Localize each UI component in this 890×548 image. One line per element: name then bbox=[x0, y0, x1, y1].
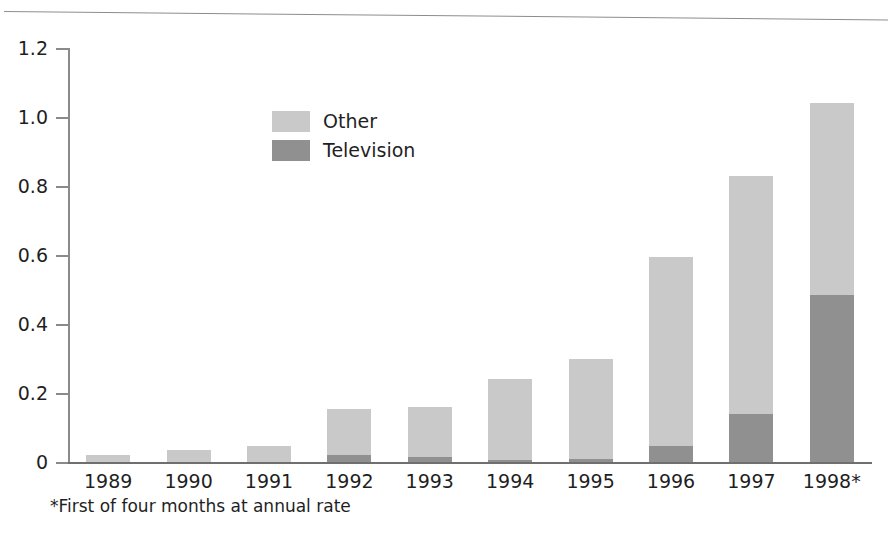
bar-segment-other-1990 bbox=[167, 450, 211, 462]
y-tick-label-0_4: 0.4 bbox=[18, 315, 48, 334]
y-axis-line bbox=[68, 48, 70, 462]
x-tick-label-1994: 1994 bbox=[470, 470, 550, 492]
bar-segment-television-1996 bbox=[649, 446, 693, 462]
x-tick-label-1990: 1990 bbox=[148, 470, 228, 492]
legend-label-television: Television bbox=[323, 140, 415, 161]
bar-segment-television-1997 bbox=[729, 414, 773, 462]
y-tick-0_4 bbox=[56, 324, 68, 326]
x-tick-label-1995: 1995 bbox=[550, 470, 630, 492]
y-tick-label-0: 0 bbox=[36, 453, 48, 472]
x-tick-label-1993: 1993 bbox=[390, 470, 470, 492]
y-tick-0_6 bbox=[56, 255, 68, 257]
x-tick-label-1997: 1997 bbox=[711, 470, 791, 492]
bar-segment-television-1995 bbox=[569, 459, 613, 462]
bar-segment-other-1991 bbox=[247, 446, 291, 462]
x-tick-label-1998: 1998* bbox=[792, 470, 872, 492]
bar-segment-television-1998 bbox=[810, 295, 854, 462]
bar-segment-other-1997 bbox=[729, 176, 773, 414]
chart-footnote: *First of four months at annual rate bbox=[50, 496, 351, 516]
x-tick-label-1989: 1989 bbox=[68, 470, 148, 492]
bar-segment-other-1989 bbox=[86, 455, 130, 462]
legend-item-television: Television bbox=[272, 137, 415, 163]
bar-segment-other-1996 bbox=[649, 257, 693, 447]
legend-swatch-television-icon bbox=[272, 140, 310, 161]
x-tick-label-1991: 1991 bbox=[229, 470, 309, 492]
y-tick-label-0_6: 0.6 bbox=[18, 246, 48, 265]
x-axis-line bbox=[68, 462, 872, 464]
bar-segment-other-1992 bbox=[327, 409, 371, 456]
chart-legend: Other Television bbox=[272, 108, 415, 166]
bar-segment-other-1994 bbox=[488, 379, 532, 460]
y-tick-label-1_0: 1.0 bbox=[18, 108, 48, 127]
y-tick-0_8 bbox=[56, 186, 68, 188]
bar-segment-other-1995 bbox=[569, 359, 613, 459]
y-tick-label-1_2: 1.2 bbox=[18, 39, 48, 58]
legend-swatch-other-icon bbox=[272, 111, 310, 132]
y-tick-0_2 bbox=[56, 393, 68, 395]
x-tick-label-1992: 1992 bbox=[309, 470, 389, 492]
bar-segment-other-1993 bbox=[408, 407, 452, 457]
y-tick-label-0_2: 0.2 bbox=[18, 384, 48, 403]
bar-segment-television-1993 bbox=[408, 457, 452, 462]
legend-label-other: Other bbox=[323, 111, 377, 132]
bar-segment-other-1998 bbox=[810, 103, 854, 294]
x-tick-label-1996: 1996 bbox=[631, 470, 711, 492]
y-tick-1_2 bbox=[56, 48, 68, 50]
stacked-bar-chart: 1.2 1.0 0.8 0.6 0.4 0.2 0 19891990199119… bbox=[0, 0, 890, 548]
bar-segment-television-1992 bbox=[327, 455, 371, 462]
legend-item-other: Other bbox=[272, 108, 415, 134]
bar-segment-television-1994 bbox=[488, 460, 532, 462]
y-tick-label-0_8: 0.8 bbox=[18, 177, 48, 196]
y-tick-1_0 bbox=[56, 117, 68, 119]
y-tick-0 bbox=[56, 462, 68, 464]
